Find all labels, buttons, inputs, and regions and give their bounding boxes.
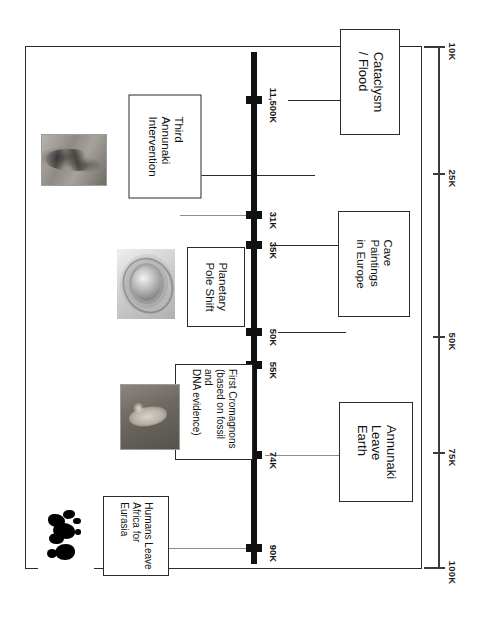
leader-line-cave-paintings [270, 245, 342, 246]
cromagnon-skeleton-image [120, 384, 180, 450]
axis-label-10k: 10K [447, 42, 458, 60]
cave-art-image [41, 134, 107, 186]
timeline-bar [251, 52, 257, 564]
event-date-74k: 74K [268, 452, 279, 469]
axis-label-50k: 50K [447, 332, 458, 350]
label-box-third-annunaki-intervention[interactable]: Third Annunaki Intervention [129, 95, 202, 199]
event-date-90k: 90K [268, 545, 279, 562]
label-text-annunaki-leave: Annunaki Leave Earth [354, 425, 398, 479]
world-map-illustration [38, 503, 94, 569]
axis-cap-bottom [424, 567, 445, 569]
pole-shift-image [117, 249, 175, 319]
label-box-planetary-pole-shift[interactable]: Planetary Pole Shift [187, 247, 245, 327]
label-text-cataclysm: Cataclysm / Flood [355, 52, 385, 113]
event-marker-35k[interactable] [246, 241, 262, 249]
label-text-humans-leave: Humans Leave Africa for Eurasia [118, 502, 153, 569]
label-box-annunaki-leave-earth[interactable]: Annunaki Leave Earth [339, 402, 413, 502]
axis-label-75k: 75K [447, 448, 458, 466]
axis-tick-75k [433, 452, 445, 454]
event-date-31k: 31K [268, 212, 279, 229]
event-date-11500k: 11,500K [268, 88, 279, 123]
label-box-first-cromagnons[interactable]: First Cromagnons (based on fossil and DN… [175, 364, 253, 460]
event-marker-50k[interactable] [246, 328, 262, 336]
leader-line-pole-shift [278, 332, 346, 333]
event-marker-90k[interactable] [246, 544, 262, 552]
leader-line-third-intervention [180, 215, 252, 216]
event-date-35k: 35K [268, 242, 279, 259]
axis-tick-25k [433, 173, 445, 175]
timeline-diagram-canvas: 10K 25K 50K 75K 100K 11,500K 31K 35K 50K… [0, 0, 480, 631]
label-text-cave-paintings: Cave Paintings in Europe [354, 239, 394, 288]
pole-shift-illustration [117, 249, 175, 319]
label-box-cave-paintings[interactable]: Cave Paintings in Europe [338, 211, 410, 317]
label-text-pole-shift: Planetary Pole Shift [203, 262, 230, 311]
event-marker-11500k[interactable] [246, 96, 262, 104]
label-text-cromagnons: First Cromagnons (based on fossil and DN… [190, 369, 237, 455]
time-scale-axis [438, 46, 440, 569]
axis-tick-50k [433, 336, 445, 338]
event-marker-31k[interactable] [246, 211, 262, 219]
cromagnon-illustration [121, 385, 179, 449]
axis-label-25k: 25K [447, 169, 458, 187]
event-date-55k: 55K [268, 362, 279, 379]
axis-cap-top [424, 46, 445, 48]
world-map-image [38, 503, 94, 569]
event-date-50k: 50K [268, 329, 279, 346]
axis-label-100k: 100K [447, 561, 458, 585]
cave-art-illustration [42, 135, 106, 185]
leader-line-humans-leave [160, 548, 252, 549]
label-text-third-intervention: Third Annunaki Intervention [145, 116, 185, 176]
label-box-cataclysm-flood[interactable]: Cataclysm / Flood [340, 29, 400, 135]
label-box-humans-leave-africa[interactable]: Humans Leave Africa for Eurasia [103, 496, 169, 576]
